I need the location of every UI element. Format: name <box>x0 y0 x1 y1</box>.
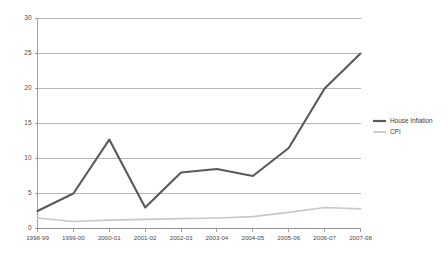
y-axis-tick-labels: 051015202530 <box>24 14 37 231</box>
gridlines <box>38 19 361 229</box>
y-tick-label: 25 <box>24 49 32 56</box>
y-tick-label: 10 <box>24 154 32 161</box>
chart-legend: House InflationCPI <box>373 117 433 135</box>
y-tick-label: 15 <box>24 119 32 126</box>
data-series <box>38 54 361 222</box>
x-tick-label: 2007-08 <box>349 234 372 241</box>
x-axis-tick-marks <box>38 229 361 232</box>
x-tick-label: 2000-01 <box>98 234 121 241</box>
x-tick-label: 2001-02 <box>134 234 157 241</box>
y-tick-label: 30 <box>24 14 32 21</box>
x-tick-label: 2006-07 <box>313 234 336 241</box>
x-tick-label: 1998-99 <box>26 234 49 241</box>
legend-label: House Inflation <box>390 117 433 124</box>
x-axis-tick-labels: 1998-991999-002000-012001-022002-032003-… <box>26 234 372 241</box>
x-tick-label: 2005-06 <box>277 234 300 241</box>
x-tick-label: 2003-04 <box>206 234 229 241</box>
x-tick-label: 2004-05 <box>241 234 264 241</box>
y-tick-label: 5 <box>28 189 32 196</box>
chart-canvas: 051015202530 1998-991999-002000-012001-0… <box>0 0 448 260</box>
y-tick-label: 20 <box>24 84 32 91</box>
x-tick-label: 2002-03 <box>170 234 193 241</box>
series-line-house-inflation <box>38 54 361 212</box>
y-tick-label: 0 <box>28 224 32 231</box>
series-line-cpi <box>38 208 361 222</box>
x-tick-label: 1999-00 <box>62 234 85 241</box>
legend-label: CPI <box>390 128 401 135</box>
line-chart: 051015202530 1998-991999-002000-012001-0… <box>0 0 448 260</box>
